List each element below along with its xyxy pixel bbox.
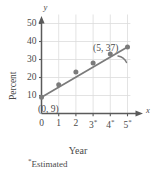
x-axis-label: Year [0, 146, 156, 156]
footnote-text: Estimated [32, 159, 68, 169]
estimated-marker: * [111, 118, 115, 126]
y-tick-label-30: 30 [19, 55, 37, 65]
estimated-footnote: *Estimated [28, 158, 68, 169]
x-tick-label-4: 4* [103, 119, 117, 131]
x-tick-label-5: 5* [121, 119, 135, 131]
y-tick-label-20: 20 [19, 73, 37, 83]
annotation-point-0: (0, 9) [38, 105, 59, 115]
x-axis-variable-letter: x [146, 106, 150, 115]
y-tick-label-10: 10 [19, 91, 37, 101]
tick-marks [39, 24, 128, 117]
x-tick-label-0: 0 [35, 119, 49, 129]
annotation-point-5: (5, 37) [93, 44, 118, 54]
y-axis-label: Percent [9, 72, 19, 101]
estimated-marker: * [94, 118, 98, 126]
chart-figure: Percent Year y x (0, 9) (5, 37) *Estimat… [0, 0, 156, 170]
gridlines [42, 15, 131, 114]
y-tick-label-50: 50 [19, 19, 37, 29]
x-tick-label-1: 1 [52, 119, 66, 129]
x-tick-label-3: 3* [86, 119, 100, 131]
x-tick-label-2: 2 [69, 119, 83, 129]
estimated-marker: * [128, 118, 132, 126]
y-tick-label-40: 40 [19, 37, 37, 47]
y-axis-variable-letter: y [44, 3, 48, 12]
trend-line [42, 47, 128, 97]
